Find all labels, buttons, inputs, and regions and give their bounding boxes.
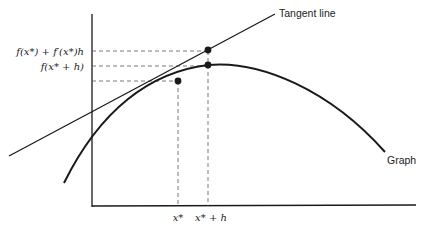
actual-value-dot (205, 62, 212, 69)
tangent-diagram: Tangent line Graph f(x*) + f′(x*)h f(x* … (0, 0, 422, 234)
x-axis (92, 205, 416, 206)
graph-curve (64, 64, 385, 183)
graph-label: Graph (387, 154, 416, 166)
tangent-point-dot (175, 78, 182, 85)
tangent-estimate-dot (205, 47, 212, 54)
tangent-line-label: Tangent line (279, 7, 336, 19)
tangent-line (9, 14, 275, 156)
y-label-lower: f(x* + h) (40, 61, 84, 72)
x-label-x-star-h: x* + h (195, 212, 227, 223)
y-label-upper: f(x*) + f′(x*)h (15, 46, 84, 57)
x-label-x-star: x* (173, 212, 184, 223)
